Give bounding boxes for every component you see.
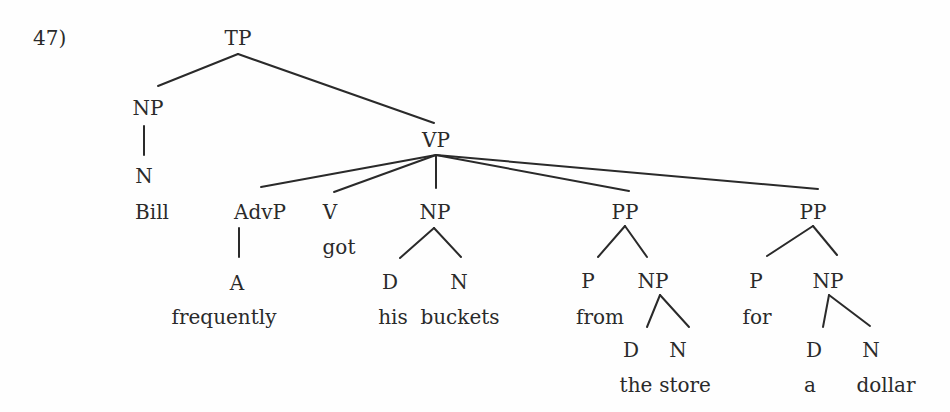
node-label-advp: AdvP <box>234 202 286 222</box>
branch-np4-d3 <box>823 295 829 327</box>
branch-pp2-np4 <box>813 226 837 255</box>
node-label-d1: D <box>382 272 398 292</box>
node-label-np3: NP <box>638 271 669 291</box>
branch-pp1-p1 <box>598 226 625 257</box>
node-label-n2: N <box>450 272 468 292</box>
node-label-np2: NP <box>420 202 451 222</box>
terminal-word-bill: Bill <box>135 202 169 222</box>
terminal-word-store: store <box>659 375 711 395</box>
branch-np2-d1 <box>400 228 434 258</box>
node-label-tp: TP <box>225 28 252 48</box>
branch-vp-pp2 <box>436 155 818 189</box>
node-label-np4: NP <box>813 271 844 291</box>
node-label-d2: D <box>623 340 639 360</box>
node-label-p2: P <box>749 271 762 291</box>
node-label-pp1: PP <box>612 202 639 222</box>
branch-tp-np1 <box>158 54 238 86</box>
node-label-pp2: PP <box>800 202 827 222</box>
terminal-word-a_det: a <box>804 375 816 395</box>
branch-vp-v <box>334 155 436 192</box>
node-label-a: A <box>230 273 244 293</box>
branch-np4-n4 <box>829 295 870 326</box>
branch-pp1-np3 <box>625 226 647 257</box>
terminal-word-frequently: frequently <box>172 307 277 327</box>
node-label-d3: D <box>806 340 822 360</box>
terminal-word-his: his <box>378 307 408 327</box>
terminal-word-dollar: dollar <box>856 375 915 395</box>
branch-np3-n3 <box>660 295 689 327</box>
node-label-n3: N <box>669 340 687 360</box>
branch-vp-advp <box>261 155 436 187</box>
branch-np2-n2 <box>434 228 461 257</box>
node-label-vp: VP <box>422 130 450 150</box>
terminal-word-from: from <box>576 307 624 327</box>
node-label-v: V <box>323 202 337 222</box>
terminal-word-for: for <box>742 307 771 327</box>
terminal-word-got: got <box>323 237 356 257</box>
node-label-p1: P <box>581 271 594 291</box>
syntax-tree-figure: 47) TPNPNBillVPAdvPAfrequentlyVgotNPDNhi… <box>0 0 950 412</box>
node-label-np1: NP <box>133 98 164 118</box>
terminal-word-buckets: buckets <box>420 307 499 327</box>
branch-tp-vp <box>238 54 434 123</box>
terminal-word-the: the <box>620 375 653 395</box>
branch-pp2-p2 <box>767 226 813 256</box>
branch-vp-pp1 <box>436 155 629 191</box>
node-label-n1: N <box>135 166 153 186</box>
branch-np3-d2 <box>647 295 660 327</box>
node-label-n4: N <box>862 340 880 360</box>
